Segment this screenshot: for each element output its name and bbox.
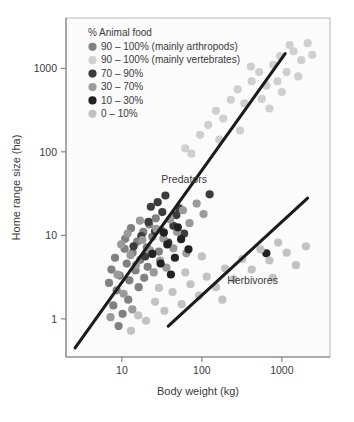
data-point [218, 296, 226, 304]
data-point [265, 256, 273, 264]
data-point [123, 259, 131, 267]
data-point [134, 311, 142, 319]
data-point [286, 41, 294, 49]
data-point [144, 263, 152, 271]
data-point [283, 249, 291, 257]
x-tick-label: 100 [193, 364, 211, 376]
x-tick-label: 1000 [270, 364, 294, 376]
legend-label-p10_30: 10 – 30% [101, 95, 143, 106]
data-point [278, 88, 286, 96]
legend-title: % Animal food [88, 27, 152, 38]
y-tick-label: 100 [39, 146, 57, 158]
data-point [147, 203, 155, 211]
data-point [308, 51, 316, 59]
data-point [168, 288, 176, 296]
data-point [199, 210, 207, 218]
data-point [117, 240, 125, 248]
data-point [219, 114, 227, 122]
data-point [174, 223, 182, 231]
data-point [184, 245, 192, 253]
data-point [113, 270, 121, 278]
y-tick-label: 10 [45, 229, 57, 241]
legend-swatch-p0_10 [88, 110, 96, 118]
legend-swatch-p30_70 [88, 83, 96, 91]
data-point [236, 126, 244, 134]
data-point [265, 104, 273, 112]
x-tick-label: 10 [116, 364, 128, 376]
data-point [155, 284, 163, 292]
data-point [161, 191, 169, 199]
data-point [283, 68, 291, 76]
chart-figure: 1101001000101001000Body weight (kg)Home … [0, 0, 354, 422]
annotation-herbivores: Herbivores [227, 274, 278, 286]
data-point [203, 273, 211, 281]
legend-swatch-p10_30 [88, 96, 96, 104]
data-point [140, 274, 148, 282]
data-point [154, 198, 162, 206]
data-point [109, 301, 117, 309]
data-point [163, 240, 171, 248]
data-point [186, 280, 194, 288]
data-point [255, 68, 263, 76]
data-point [150, 268, 158, 276]
data-point [126, 251, 134, 259]
data-point [227, 96, 235, 104]
data-point [157, 259, 165, 267]
data-point [135, 283, 143, 291]
data-point [181, 268, 189, 276]
data-point [160, 307, 168, 315]
legend-swatch-vertebrates [88, 56, 96, 64]
data-point [119, 290, 127, 298]
data-point [206, 190, 214, 198]
data-point [111, 254, 119, 262]
data-point [274, 238, 282, 246]
data-point [151, 298, 159, 306]
legend-label-vertebrates: 90 – 100% (mainly vertebrates) [101, 54, 240, 65]
data-point [256, 245, 264, 253]
data-point [129, 242, 137, 250]
legend-label-p0_10: 0 – 10% [101, 108, 138, 119]
data-point [248, 77, 256, 85]
data-point [187, 150, 195, 158]
data-point [105, 279, 113, 287]
data-point [185, 219, 193, 227]
annotation-predators: Predators [161, 173, 207, 185]
x-axis-title: Body weight (kg) [157, 385, 239, 397]
y-axis-title: Home range size (ha) [10, 135, 22, 241]
data-point [158, 208, 166, 216]
data-point [304, 39, 312, 47]
data-point [142, 317, 150, 325]
data-point [115, 322, 123, 330]
data-point [127, 327, 135, 335]
data-point [106, 313, 114, 321]
legend-swatch-p70_90 [88, 70, 96, 78]
data-point [297, 56, 305, 64]
y-tick-label: 1000 [34, 62, 58, 74]
data-point [258, 95, 266, 103]
data-point [152, 214, 160, 222]
scatter-plot-canvas: 1101001000101001000Body weight (kg)Home … [0, 0, 354, 422]
y-tick-label: 1 [51, 313, 57, 325]
data-point [247, 62, 255, 70]
data-point [136, 217, 144, 225]
data-point [179, 206, 187, 214]
data-point [178, 300, 186, 308]
data-point [171, 254, 179, 262]
data-point [212, 107, 220, 115]
legend-label-p70_90: 70 – 90% [101, 68, 143, 79]
legend-label-arthropods: 90 – 100% (mainly arthropods) [101, 41, 238, 52]
data-point [177, 235, 185, 243]
data-point [198, 252, 206, 260]
data-point [196, 131, 204, 139]
data-point [292, 261, 300, 269]
data-point [167, 270, 175, 278]
data-point [204, 121, 212, 129]
legend-label-p30_70: 30 – 70% [101, 81, 143, 92]
data-point [248, 265, 256, 273]
data-point [148, 250, 156, 258]
data-point [193, 200, 201, 208]
data-point [138, 236, 146, 244]
data-point [234, 85, 242, 93]
data-point [128, 305, 136, 313]
legend-swatch-arthropods [88, 43, 96, 51]
